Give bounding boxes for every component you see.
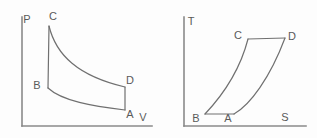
pv-x-axis-label: V	[139, 111, 147, 123]
pv-point-label-b: B	[33, 79, 40, 91]
ts-segment-ad	[234, 38, 285, 114]
ts-point-label-d: D	[288, 30, 296, 42]
pv-y-axis-label: P	[23, 13, 30, 25]
ts-point-label-b: B	[192, 112, 199, 124]
ts-segment-dc	[248, 38, 285, 39]
ts-segment-cb	[205, 39, 248, 114]
ts-y-axis-label: T	[188, 15, 195, 27]
pv-point-label-c: C	[49, 10, 57, 22]
ts-point-label-a: A	[224, 112, 232, 124]
pv-segment-cd	[49, 26, 125, 87]
ts-x-axis-label: S	[281, 111, 288, 123]
pv-diagram: P V C B D A	[22, 10, 152, 126]
pv-segment-bc	[48, 26, 49, 88]
pv-point-label-d: D	[126, 74, 134, 86]
ts-diagram: T S C D B A	[184, 15, 306, 126]
thermodynamic-cycle-figure: P V C B D A T S	[0, 0, 317, 138]
ts-point-label-c: C	[234, 29, 242, 41]
pv-point-label-a: A	[126, 108, 134, 120]
pv-segment-ab	[48, 88, 125, 110]
